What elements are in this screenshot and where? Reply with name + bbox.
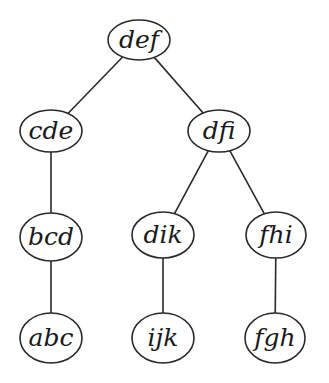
node-dik: dik xyxy=(132,212,194,258)
edge-fhi-fgh xyxy=(275,258,276,313)
tree-diagram: defcdedfibcddikfhiabcijkfgh xyxy=(0,0,329,383)
node-abc: abc xyxy=(20,313,82,363)
edge-def-cde xyxy=(68,57,123,113)
edge-def-dfi xyxy=(154,57,203,113)
edge-dfi-dik xyxy=(175,151,209,214)
node-dfi: dfi xyxy=(188,110,250,152)
node-label: abc xyxy=(29,323,74,352)
node-label: fhi xyxy=(257,220,292,249)
node-ijk: ijk xyxy=(132,313,194,363)
edges-group xyxy=(51,57,276,313)
node-label: bcd xyxy=(28,222,74,251)
node-label: def xyxy=(119,25,163,54)
node-label: dik xyxy=(143,220,182,249)
node-fhi: fhi xyxy=(246,212,306,258)
node-bcd: bcd xyxy=(20,213,82,261)
node-label: fgh xyxy=(252,323,295,352)
node-label: dfi xyxy=(203,116,236,145)
node-cde: cde xyxy=(20,110,82,152)
node-fgh: fgh xyxy=(245,313,305,363)
node-def: def xyxy=(108,20,170,60)
node-label: ijk xyxy=(148,323,179,352)
node-label: cde xyxy=(29,116,74,145)
edge-dfi-fhi xyxy=(230,151,265,214)
